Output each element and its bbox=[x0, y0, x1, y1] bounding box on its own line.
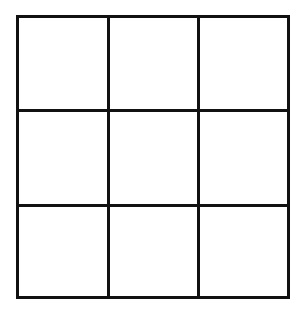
grid-cell-r2c1[interactable] bbox=[19, 112, 107, 204]
grid-cell-r3c1[interactable] bbox=[19, 207, 107, 296]
grid-cell-r1c3[interactable] bbox=[200, 18, 287, 109]
grid-cell-r1c2[interactable] bbox=[110, 18, 197, 109]
grid-cell-r1c1[interactable] bbox=[19, 18, 107, 109]
grid-cell-r3c3[interactable] bbox=[200, 207, 287, 296]
tic-tac-toe-grid bbox=[16, 15, 290, 299]
grid-cell-r3c2[interactable] bbox=[110, 207, 197, 296]
grid-cell-r2c2[interactable] bbox=[110, 112, 197, 204]
grid-cell-r2c3[interactable] bbox=[200, 112, 287, 204]
